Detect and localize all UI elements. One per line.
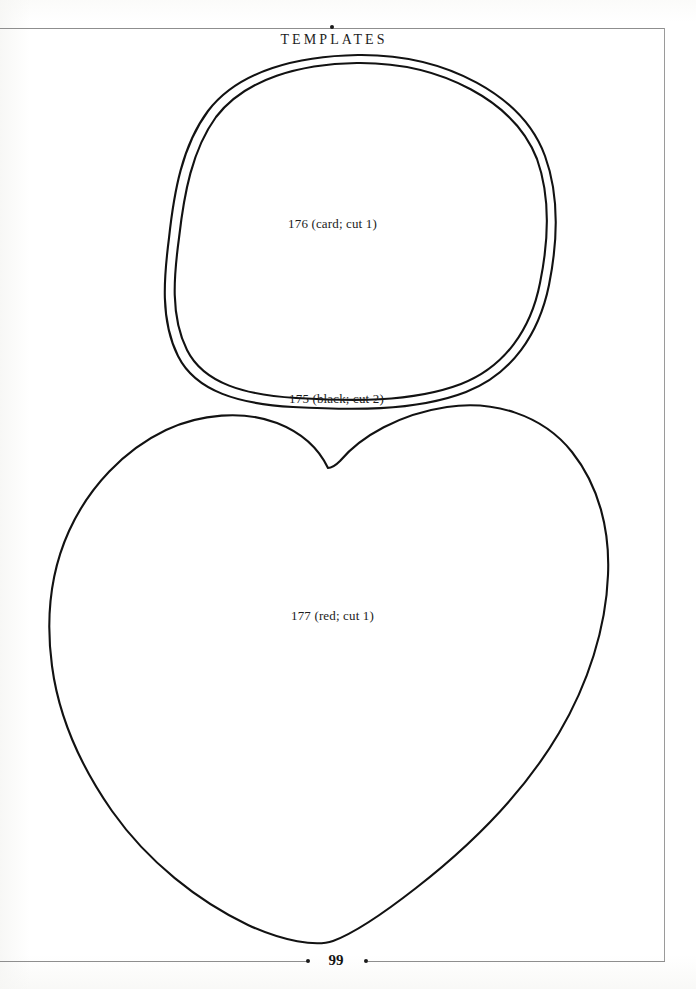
- template-page: TEMPLATES 176 (card; cut 1) 175 (black; …: [0, 0, 696, 989]
- paper-texture: [0, 0, 696, 989]
- template-label-176: 176 (card; cut 1): [0, 216, 665, 232]
- template-artwork: [0, 0, 696, 989]
- header-dot-icon: [330, 25, 334, 29]
- footer-rule-left: [0, 961, 308, 962]
- footer-rule-right: [368, 961, 665, 962]
- page-footer: 99: [0, 952, 665, 972]
- heart-outline: [49, 405, 608, 943]
- page-title: TEMPLATES: [0, 32, 665, 48]
- page-right-border: [664, 28, 665, 961]
- template-label-175: 175 (black; cut 2): [0, 391, 673, 407]
- template-label-177: 177 (red; cut 1): [0, 608, 665, 624]
- page-number: 99: [310, 952, 362, 969]
